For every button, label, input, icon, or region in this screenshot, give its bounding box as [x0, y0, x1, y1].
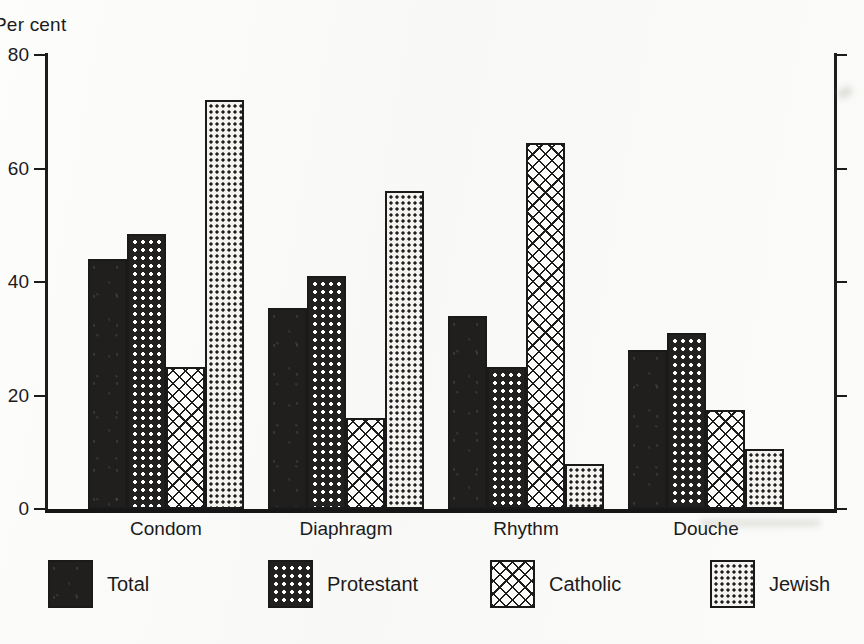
y-tick-right-60 — [834, 168, 847, 170]
y-tick-80 — [34, 54, 47, 56]
bar-condom-total — [88, 259, 127, 509]
bar-diaphragm-protestant — [307, 276, 346, 509]
y-tick-right-40 — [834, 281, 847, 283]
legend-swatch-jewish — [710, 560, 755, 608]
legend-label-catholic: Catholic — [549, 573, 621, 596]
bar-condom-jewish — [205, 100, 244, 509]
y-tick-label-40: 40 — [0, 272, 29, 291]
x-label-condom: Condom — [76, 518, 256, 540]
y-tick-right-20 — [834, 395, 847, 397]
bar-rhythm-jewish — [565, 464, 604, 509]
bar-condom-protestant — [127, 234, 166, 509]
legend-swatch-catholic — [490, 560, 535, 608]
legend-label-total: Total — [107, 573, 149, 596]
bar-diaphragm-total — [268, 308, 307, 509]
plot-area: 020406080 — [47, 55, 835, 509]
bar-chart: Per cent 020406080 CondomDiaphragmRhythm… — [0, 0, 864, 644]
chart-legend: TotalProtestantCatholicJewish — [0, 560, 864, 630]
x-label-rhythm: Rhythm — [436, 518, 616, 540]
legend-label-jewish: Jewish — [769, 573, 830, 596]
y-tick-60 — [34, 168, 47, 170]
scan-artifact — [837, 85, 854, 100]
bar-douche-catholic — [706, 410, 745, 509]
y-tick-label-20: 20 — [0, 386, 29, 405]
bar-diaphragm-jewish — [385, 191, 424, 509]
bar-rhythm-catholic — [526, 143, 565, 509]
bar-diaphragm-catholic — [346, 418, 385, 509]
legend-item-catholic: Catholic — [490, 560, 621, 608]
legend-item-protestant: Protestant — [268, 560, 418, 608]
bar-douche-total — [628, 350, 667, 509]
bar-condom-catholic — [166, 367, 205, 509]
y-tick-right-0 — [834, 508, 847, 510]
bar-douche-protestant — [667, 333, 706, 509]
legend-swatch-protestant — [268, 560, 313, 608]
legend-item-total: Total — [48, 560, 149, 608]
bar-rhythm-protestant — [487, 367, 526, 509]
y-tick-0 — [34, 508, 47, 510]
y-axis-title: Per cent — [0, 14, 66, 36]
y-tick-label-80: 80 — [0, 45, 29, 64]
x-label-douche: Douche — [616, 518, 796, 540]
y-tick-label-0: 0 — [0, 499, 29, 518]
x-label-diaphragm: Diaphragm — [256, 518, 436, 540]
y-tick-40 — [34, 281, 47, 283]
legend-swatch-total — [48, 560, 93, 608]
bar-rhythm-total — [448, 316, 487, 509]
y-tick-20 — [34, 395, 47, 397]
x-axis-line — [45, 509, 837, 513]
legend-label-protestant: Protestant — [327, 573, 418, 596]
legend-item-jewish: Jewish — [710, 560, 830, 608]
bar-douche-jewish — [745, 449, 784, 509]
y-tick-label-60: 60 — [0, 159, 29, 178]
y-tick-right-80 — [834, 54, 847, 56]
